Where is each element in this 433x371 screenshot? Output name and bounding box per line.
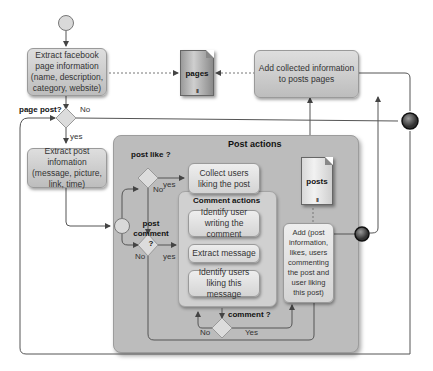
collection-marker-icon: III	[196, 88, 198, 94]
identify-user-writing-task[interactable]: Identify user writing the comment	[188, 210, 260, 237]
comment-no-label: No	[200, 328, 210, 337]
process-diagram: Post actions Comment actions	[0, 0, 433, 371]
extract-page-info-task[interactable]: Extract facebook page information (name,…	[27, 48, 107, 96]
add-post-info-task[interactable]: Add (post information, likes, users comm…	[283, 223, 334, 303]
page-fold-icon	[206, 50, 214, 58]
page-post-no-label: No	[80, 105, 90, 114]
post-comment-no-label: No	[135, 252, 145, 261]
post-like-no-label: No	[153, 185, 163, 194]
page-post-yes-label: yes	[70, 132, 82, 141]
page-post-gateway-label: page post?	[19, 105, 62, 114]
comment-gateway-label: comment ?	[228, 310, 271, 319]
comment-yes-label: Yes	[245, 328, 258, 337]
start-event	[59, 16, 74, 31]
posts-data-store[interactable]: posts III	[301, 157, 333, 205]
identify-users-liking-message-task[interactable]: Identify users liking this message	[188, 270, 260, 297]
posts-label: posts	[306, 177, 327, 186]
extract-message-task[interactable]: Extract message	[188, 244, 260, 263]
post-like-yes-label: yes	[163, 180, 175, 189]
post-like-gateway-label: post like ?	[131, 150, 171, 159]
extract-post-info-task[interactable]: Extract post infomation (message, pictur…	[27, 148, 107, 188]
collection-marker-icon: III	[316, 197, 318, 203]
page-fold-icon	[325, 157, 333, 165]
collect-users-liking-task[interactable]: Collect users liking the post	[188, 163, 260, 194]
pages-data-store[interactable]: pages III	[180, 50, 214, 96]
post-comment-yes-label: yes	[163, 252, 175, 261]
add-collected-info-task[interactable]: Add collected information to posts pages	[254, 50, 359, 98]
pages-label: pages	[185, 69, 208, 78]
post-comment-gateway-label: post comment ?	[131, 219, 171, 249]
